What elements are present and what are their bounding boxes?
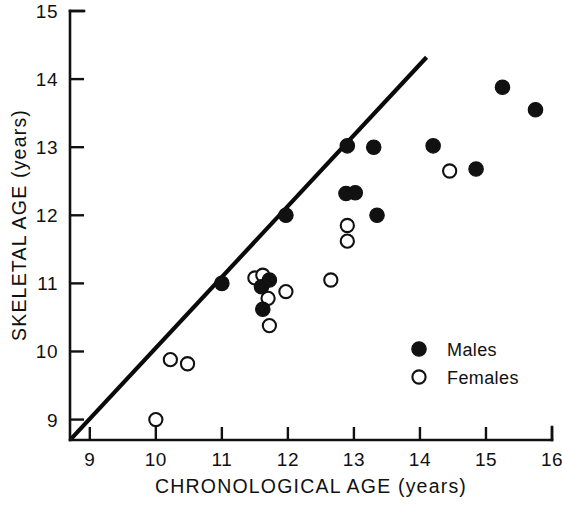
y-axis-tick-labels: 9101112131415 <box>36 1 58 431</box>
data-point-male-13 <box>528 103 542 117</box>
x-axis-ticks <box>90 427 552 440</box>
reference-line <box>71 57 426 438</box>
identity-reference-line <box>71 57 426 438</box>
y-tick-label-11: 11 <box>37 273 58 294</box>
legend: Males Females <box>412 340 519 388</box>
data-point-male-10 <box>426 139 440 153</box>
data-point-female-11 <box>443 164 456 177</box>
x-tick-label-15: 15 <box>475 449 497 470</box>
y-tick-label-10: 10 <box>36 341 58 362</box>
y-tick-label-12: 12 <box>36 205 58 226</box>
x-tick-label-9: 9 <box>84 449 95 470</box>
data-point-male-9 <box>370 208 384 222</box>
y-axis-ticks <box>70 11 84 420</box>
x-axis-tick-labels: 910111213141516 <box>84 449 562 470</box>
x-axis-title: CHRONOLOGICAL AGE (years) <box>155 475 467 497</box>
plot-canvas: 9101112131415 910111213141516 CHRONOLOGI… <box>0 0 562 507</box>
data-point-female-6 <box>263 319 276 332</box>
legend-marker-males <box>412 342 426 356</box>
data-point-male-4 <box>279 208 293 222</box>
data-point-female-1 <box>164 353 177 366</box>
male-data-points <box>215 80 543 316</box>
x-tick-label-11: 11 <box>211 449 232 470</box>
x-tick-label-12: 12 <box>277 449 299 470</box>
legend-label-males: Males <box>447 340 497 360</box>
y-tick-label-13: 13 <box>36 137 58 158</box>
data-point-male-5 <box>340 139 354 153</box>
y-tick-label-9: 9 <box>47 410 58 431</box>
x-tick-label-10: 10 <box>145 449 167 470</box>
data-point-male-0 <box>215 276 229 290</box>
data-point-male-11 <box>469 162 483 176</box>
data-point-male-2 <box>256 302 270 316</box>
data-point-female-10 <box>341 235 354 248</box>
y-tick-label-14: 14 <box>36 69 58 90</box>
y-tick-label-15: 15 <box>36 1 58 22</box>
data-point-female-7 <box>279 285 292 298</box>
female-data-points <box>149 164 456 426</box>
data-point-male-12 <box>495 80 509 94</box>
x-tick-label-14: 14 <box>409 449 431 470</box>
legend-label-females: Females <box>447 368 519 388</box>
data-point-female-2 <box>181 357 194 370</box>
data-point-male-7 <box>348 186 362 200</box>
y-axis-title: SKELETAL AGE (years) <box>8 109 30 341</box>
x-tick-label-13: 13 <box>343 449 365 470</box>
legend-marker-females <box>412 370 425 383</box>
data-point-male-8 <box>367 140 381 154</box>
data-point-female-8 <box>324 273 337 286</box>
data-point-female-9 <box>341 219 354 232</box>
x-tick-label-16: 16 <box>541 449 562 470</box>
data-point-female-0 <box>149 413 162 426</box>
data-point-male-3 <box>262 273 276 287</box>
scatter-chart-figure: 9101112131415 910111213141516 CHRONOLOGI… <box>0 0 562 507</box>
